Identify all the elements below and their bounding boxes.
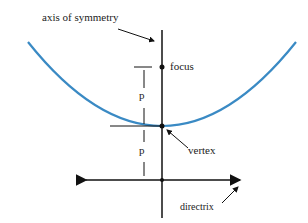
vertex-pointer-arrow	[167, 130, 188, 148]
p-upper-label: p	[139, 89, 145, 101]
directrix-pointer-arrow	[222, 187, 238, 203]
parabola-diagram	[0, 0, 308, 223]
vertex-point	[160, 124, 165, 129]
p-lower-label: p	[139, 144, 145, 156]
vertex-label: vertex	[188, 144, 215, 156]
directrix-point	[160, 178, 164, 182]
focus-label: focus	[170, 60, 194, 72]
axis-of-symmetry-label: axis of symmetry	[42, 11, 118, 23]
focus-point	[160, 65, 165, 70]
axis-pointer-arrow	[118, 29, 154, 41]
directrix-label: directrix	[180, 201, 214, 212]
